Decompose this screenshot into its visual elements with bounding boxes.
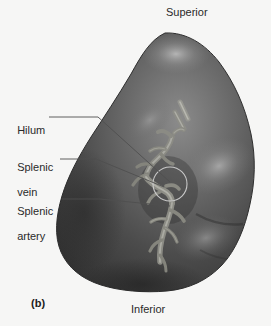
highlight-superior xyxy=(142,34,210,74)
callout-label-splenic-vein: Splenic vein xyxy=(11,148,53,198)
callout-label-splenic-artery: Splenic artery xyxy=(11,192,53,242)
spleen-organ xyxy=(42,33,263,310)
callout-label-splenic-artery-line-1: Splenic xyxy=(17,205,53,217)
panel-letter: (b) xyxy=(31,297,45,310)
callout-label-splenic-vein-line-1: Splenic xyxy=(17,161,53,173)
orientation-label-inferior: Inferior xyxy=(131,303,165,316)
callout-label-splenic-artery-line-2: artery xyxy=(17,230,45,242)
shadow-medial-border xyxy=(42,148,126,276)
callout-label-hilum: Hilum xyxy=(11,111,45,136)
callout-label-hilum-line-1: Hilum xyxy=(17,124,45,136)
orientation-label-superior: Superior xyxy=(166,6,208,19)
